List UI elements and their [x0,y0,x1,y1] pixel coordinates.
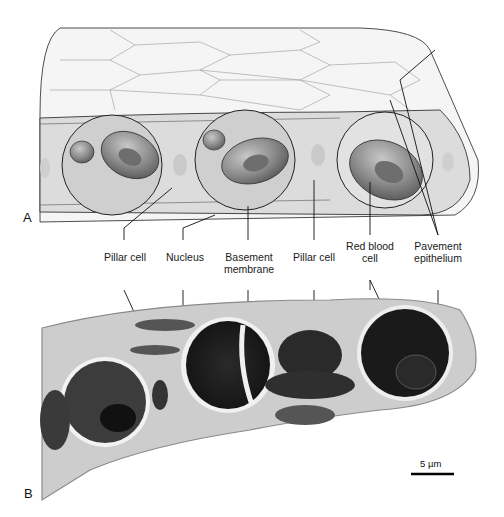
label-nucleus: Nucleus [163,251,207,263]
label-pavement-epithelium: Pavement epithelium [408,240,468,264]
panel-a-drawing [40,28,479,222]
panel-label-b: B [24,486,33,501]
label-pillar-cell-1: Pillar cell [100,251,150,263]
label-basement-membrane: Basement membrane [222,251,276,275]
label-pillar-cell-2: Pillar cell [288,251,340,263]
panel-b-micrograph [40,299,476,500]
panel-label-a: A [23,210,32,225]
label-red-blood-cell: Red blood cell [344,240,396,264]
scale-bar-label: 5 µm [420,458,441,469]
